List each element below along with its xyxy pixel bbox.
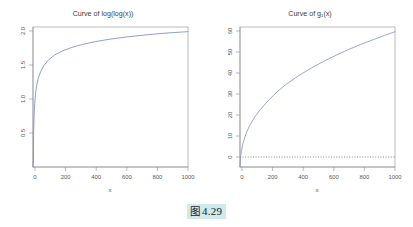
chart-panel-loglog: Curve of log(log(x)) 2.0 1.5 1.0 0.5 [0, 0, 207, 196]
x-tick-label: 200 [267, 174, 278, 180]
x-tick-label: 400 [298, 174, 309, 180]
x-tick-label: 600 [328, 174, 339, 180]
y-tick-label: 1.5 [20, 60, 26, 69]
chart-title: Curve of g₁(x) [288, 10, 331, 18]
y-tick-label: 40 [227, 69, 233, 76]
chart-panel-g1: Curve of g₁(x) 60 50 40 30 20 10 [207, 0, 413, 196]
x-tick-label: 400 [91, 174, 102, 180]
y-tick-label: 10 [227, 132, 233, 139]
x-tick-label: 800 [152, 174, 163, 180]
y-tick-label: 50 [227, 48, 233, 55]
x-tick-label: 1000 [181, 174, 195, 180]
chart-title: Curve of log(log(x)) [73, 10, 134, 18]
figure-caption: 图4.29 [187, 204, 226, 219]
plot-panels: Curve of log(log(x)) 2.0 1.5 1.0 0.5 [0, 0, 413, 196]
figure-caption-number: 4.29 [202, 205, 222, 217]
chart-svg-g1: Curve of g₁(x) 60 50 40 30 20 10 [207, 0, 413, 196]
x-tick-label: 800 [359, 174, 370, 180]
y-tick-label: 0.5 [20, 128, 26, 137]
y-tick-label: 1.0 [20, 94, 26, 103]
chart-svg-loglog: Curve of log(log(x)) 2.0 1.5 1.0 0.5 [0, 0, 207, 196]
figure-container: Curve of log(log(x)) 2.0 1.5 1.0 0.5 [0, 0, 413, 227]
figure-caption-icon: 图 [190, 205, 200, 217]
figure-caption-row: 图4.29 [0, 198, 413, 224]
panel-background [207, 0, 413, 196]
x-tick-label: 1000 [388, 174, 402, 180]
y-tick-label: 2.0 [20, 26, 26, 35]
x-tick-label: 200 [61, 174, 72, 180]
y-tick-label: 30 [227, 90, 233, 97]
panel-background [0, 0, 207, 196]
x-tick-label: 600 [122, 174, 133, 180]
y-tick-label: 60 [227, 27, 233, 34]
y-tick-label: 20 [227, 111, 233, 118]
